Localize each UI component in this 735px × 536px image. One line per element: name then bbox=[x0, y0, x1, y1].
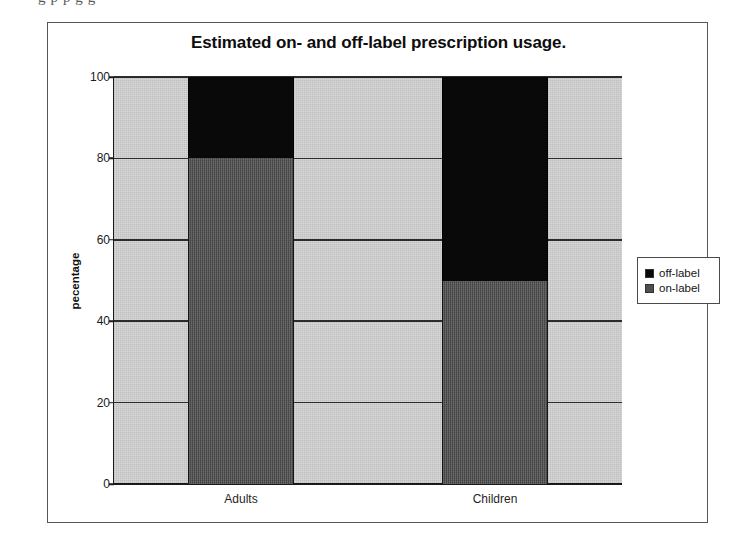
legend-label-on-label: on-label bbox=[659, 282, 700, 294]
plot-area: 020406080100AdultsChildren bbox=[114, 77, 622, 484]
chart-title: Estimated on- and off-label prescription… bbox=[48, 33, 709, 53]
x-tick-label-adults: Adults bbox=[151, 492, 331, 506]
page-text-fragment-line: g p p g g bbox=[38, 0, 96, 6]
y-axis-line bbox=[113, 77, 115, 484]
y-tick-label-60: 60 bbox=[50, 233, 110, 247]
figure-frame: Estimated on- and off-label prescription… bbox=[47, 22, 708, 523]
bar-segment-adults-on-label[interactable] bbox=[188, 158, 294, 484]
legend-swatch-on-label bbox=[645, 284, 654, 293]
legend-label-off-label: off-label bbox=[659, 267, 700, 279]
legend-item-off-label[interactable]: off-label bbox=[645, 267, 713, 279]
bar-group-children[interactable] bbox=[442, 77, 548, 484]
bar-segment-children-off-label[interactable] bbox=[442, 77, 548, 281]
y-tick-label-40: 40 bbox=[50, 314, 110, 328]
bar-segment-children-on-label[interactable] bbox=[442, 281, 548, 485]
x-tick-label-children: Children bbox=[405, 492, 585, 506]
bar-group-adults[interactable] bbox=[188, 77, 294, 484]
legend-item-on-label[interactable]: on-label bbox=[645, 282, 713, 294]
y-tick-label-80: 80 bbox=[50, 151, 110, 165]
bar-segment-adults-off-label[interactable] bbox=[188, 77, 294, 158]
y-tick-label-100: 100 bbox=[50, 70, 110, 84]
y-tick-label-20: 20 bbox=[50, 396, 110, 410]
chart-legend: off-labelon-label bbox=[637, 257, 720, 304]
y-tick-label-0: 0 bbox=[50, 477, 110, 491]
legend-swatch-off-label bbox=[645, 269, 654, 278]
page-text-fragment: g p p g g bbox=[0, 0, 735, 16]
